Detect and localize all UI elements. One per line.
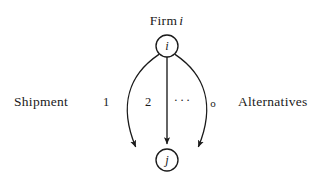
edge-label-2: 2 bbox=[139, 96, 157, 109]
node-i-label: i bbox=[157, 40, 177, 53]
node-j-label: j bbox=[157, 154, 177, 167]
firm-caption: Firmi bbox=[0, 14, 333, 28]
edge-label-1: 1 bbox=[97, 96, 115, 109]
figure-diagram: Firmi Shipment Alternatives 1 2 ··· o i … bbox=[0, 0, 333, 193]
edge-label-ellipsis: ··· bbox=[166, 94, 200, 107]
edge-label-o: o bbox=[204, 98, 222, 109]
firm-caption-text: Firm bbox=[150, 13, 177, 28]
shipment-label: Shipment bbox=[14, 95, 68, 109]
alternatives-label: Alternatives bbox=[238, 95, 308, 109]
firm-caption-variable: i bbox=[177, 13, 183, 28]
